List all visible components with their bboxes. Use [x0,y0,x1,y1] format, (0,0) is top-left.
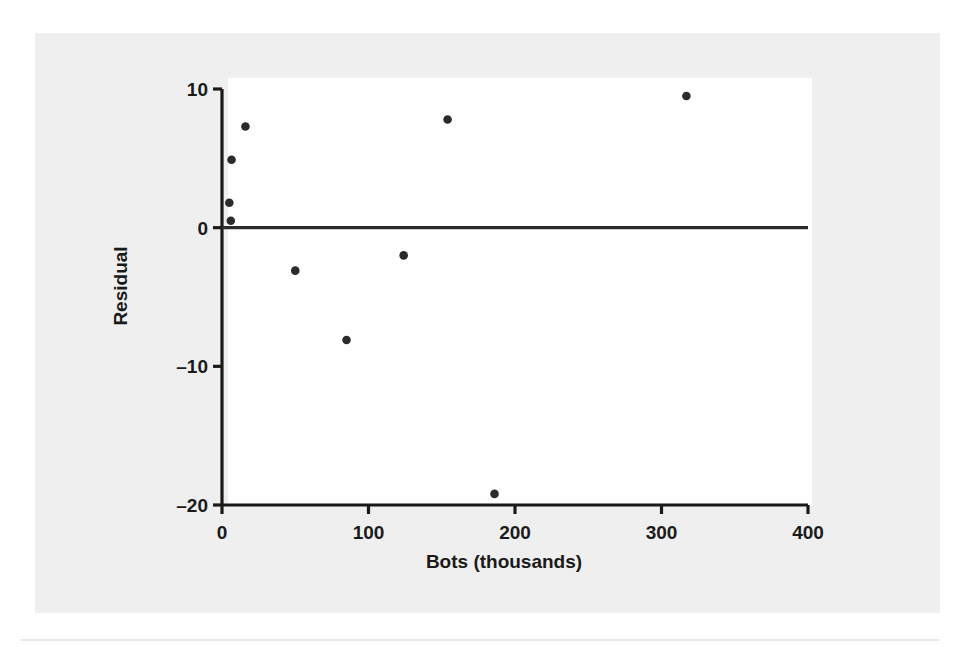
y-tick-label: 10 [122,80,208,99]
y-axis-title: Residual [110,246,132,325]
bottom-separator-rule [20,639,940,641]
y-tick-label: –20 [122,496,208,515]
tick-marks [213,89,808,514]
data-point [241,122,250,131]
x-tick-label: 100 [353,523,385,542]
y-tick-label: –10 [122,357,208,376]
data-point [682,92,691,101]
y-axis-title-text: Residual [110,246,131,325]
data-points [225,92,691,499]
data-point [226,216,235,225]
data-point [399,251,408,260]
data-point [291,266,300,275]
x-axis-title-text: Bots (thousands) [426,551,582,573]
x-tick-label: 300 [646,523,678,542]
data-point [490,490,499,499]
axis-lines [222,89,808,505]
x-tick-label: 0 [217,523,228,542]
y-tick-label: 0 [122,218,208,237]
x-tick-label: 200 [499,523,531,542]
data-point [225,198,234,207]
data-point [443,115,452,124]
x-tick-label: 400 [792,523,824,542]
x-axis-title: Bots (thousands) [0,551,972,573]
data-point [342,336,351,345]
data-point [227,155,236,164]
